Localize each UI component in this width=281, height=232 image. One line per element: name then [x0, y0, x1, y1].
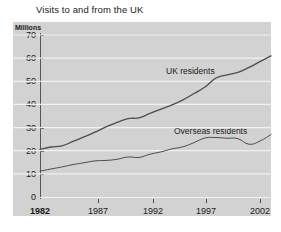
y-tick-label-30: 30	[14, 124, 36, 133]
x-tick-mark-1992	[153, 199, 154, 203]
x-tick-label-2002: 2002	[243, 207, 277, 216]
y-tick-mark-30	[40, 128, 44, 129]
y-tick-label-10: 10	[14, 170, 36, 179]
y-tick-label-60: 60	[14, 54, 36, 63]
series-label-uk-residents: UK residents	[166, 66, 215, 76]
chart-figure: Visits to and from the UK Millions 70 60…	[0, 0, 281, 232]
y-tick-mark-40	[40, 104, 44, 105]
plot-area	[13, 22, 271, 216]
y-tick-mark-0	[40, 197, 44, 198]
x-tick-label-1982: 1982	[23, 207, 57, 216]
y-tick-mark-60	[40, 58, 44, 59]
x-tick-label-1997: 1997	[189, 207, 223, 216]
y-tick-label-20: 20	[14, 147, 36, 156]
x-tick-mark-2002	[260, 199, 261, 203]
x-tick-label-1992: 1992	[136, 207, 170, 216]
x-tick-label-1987: 1987	[81, 207, 115, 216]
y-tick-mark-20	[40, 151, 44, 152]
y-tick-label-40: 40	[14, 100, 36, 109]
y-tick-label-70: 70	[14, 31, 36, 40]
y-tick-label-50: 50	[14, 77, 36, 86]
chart-title: Visits to and from the UK	[36, 4, 143, 15]
series-label-overseas-residents: Overseas residents	[174, 126, 247, 136]
x-tick-mark-1987	[98, 199, 99, 203]
y-tick-mark-50	[40, 81, 44, 82]
y-tick-mark-10	[40, 174, 44, 175]
x-tick-mark-1997	[206, 199, 207, 203]
y-tick-label-0: 0	[14, 193, 36, 202]
y-tick-mark-70	[40, 35, 44, 36]
